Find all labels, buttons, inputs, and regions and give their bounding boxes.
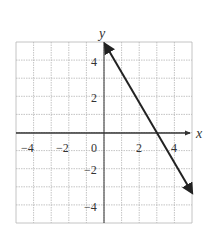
x-tick-label: 4: [171, 141, 177, 155]
x-axis-label: x: [195, 126, 203, 141]
x-tick-label: −4: [21, 141, 34, 155]
y-tick-label: 2: [91, 91, 97, 105]
plotted-line: [105, 44, 192, 193]
coordinate-plane: x y −4 −2 0 2 4 4 2 −2 −4: [0, 0, 210, 238]
x-tick-label: 0: [91, 141, 97, 155]
y-tick-label: −4: [84, 200, 97, 214]
x-tick-label: −2: [56, 141, 69, 155]
x-tick-label: 2: [136, 141, 142, 155]
y-axis-label: y: [97, 26, 106, 41]
y-tick-label: 4: [91, 55, 97, 69]
y-tick-label: −2: [84, 163, 97, 177]
